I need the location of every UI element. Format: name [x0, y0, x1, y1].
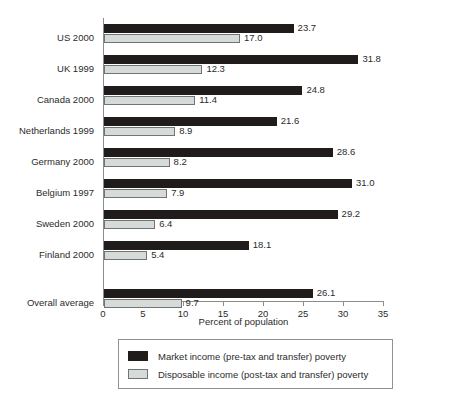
bar-disposable — [104, 251, 147, 260]
legend-label-market: Market income (pre-tax and transfer) pov… — [158, 351, 346, 362]
x-axis-title: Percent of population — [103, 316, 384, 327]
bar-disposable — [104, 34, 240, 43]
bar-value-label: 6.4 — [159, 218, 172, 229]
bar-chart: US 2000UK 1999Canada 2000Netherlands 199… — [0, 0, 459, 402]
category-label: Finland 2000 — [39, 249, 94, 260]
bar-market — [104, 24, 294, 33]
bar-value-label: 31.8 — [362, 53, 381, 64]
plot-area: 05101520253035 23.717.031.812.324.811.42… — [103, 18, 383, 301]
bar-market — [104, 179, 352, 188]
legend-item-market: Market income (pre-tax and transfer) pov… — [128, 349, 346, 363]
legend-item-disposable: Disposable income (post-tax and transfer… — [128, 367, 368, 381]
bar-value-label: 17.0 — [244, 32, 263, 43]
category-label: Sweden 2000 — [36, 218, 94, 229]
legend-label-disposable: Disposable income (post-tax and transfer… — [158, 369, 368, 380]
bar-value-label: 29.2 — [342, 208, 361, 219]
x-tick-35 — [383, 301, 384, 306]
bar-disposable — [104, 189, 167, 198]
x-tick-25 — [303, 301, 304, 306]
category-label: Canada 2000 — [37, 94, 94, 105]
bar-value-label: 26.1 — [317, 287, 336, 298]
bar-value-label: 18.1 — [253, 239, 272, 250]
legend-swatch-disposable-icon — [128, 369, 148, 379]
bar-value-label: 8.2 — [174, 156, 187, 167]
legend: Market income (pre-tax and transfer) pov… — [118, 339, 393, 389]
bar-market — [104, 55, 358, 64]
bar-market — [104, 289, 313, 298]
bar-market — [104, 210, 338, 219]
x-tick-15 — [223, 301, 224, 306]
category-label: US 2000 — [57, 32, 94, 43]
bar-value-label: 12.3 — [206, 63, 225, 74]
bar-value-label: 24.8 — [306, 84, 325, 95]
bar-value-label: 9.7 — [186, 297, 199, 308]
bar-market — [104, 241, 249, 250]
bar-disposable — [104, 65, 202, 74]
category-label: Overall average — [27, 297, 94, 308]
bar-value-label: 8.9 — [179, 125, 192, 136]
bar-value-label: 11.4 — [199, 94, 217, 105]
bar-disposable — [104, 299, 182, 308]
bar-value-label: 31.0 — [356, 177, 375, 188]
x-tick-10 — [183, 301, 184, 306]
category-label: Germany 2000 — [31, 156, 94, 167]
bar-value-label: 7.9 — [171, 187, 184, 198]
bar-value-label: 23.7 — [298, 22, 317, 33]
bar-disposable — [104, 127, 175, 136]
category-label: Belgium 1997 — [36, 187, 94, 198]
bar-value-label: 5.4 — [151, 249, 164, 260]
bar-disposable — [104, 96, 195, 105]
bar-disposable — [104, 220, 155, 229]
bar-market — [104, 148, 333, 157]
bar-value-label: 21.6 — [281, 115, 300, 126]
bar-disposable — [104, 158, 170, 167]
legend-swatch-market-icon — [128, 351, 148, 361]
category-label: Netherlands 1999 — [19, 125, 94, 136]
category-label: UK 1999 — [57, 63, 94, 74]
x-tick-20 — [263, 301, 264, 306]
bar-value-label: 28.6 — [337, 146, 356, 157]
x-tick-30 — [343, 301, 344, 306]
category-axis-labels: US 2000UK 1999Canada 2000Netherlands 199… — [0, 18, 98, 301]
